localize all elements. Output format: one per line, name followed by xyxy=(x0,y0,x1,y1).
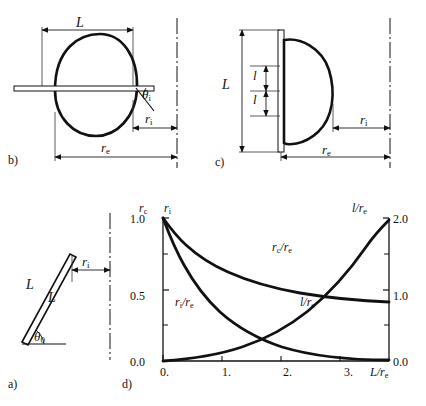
label-l-upper-c: l xyxy=(253,69,257,82)
panel-c-drawing xyxy=(239,18,390,168)
label-L-b: L xyxy=(76,16,84,30)
label-L-c: L xyxy=(222,78,230,92)
label-theta-i-b: θi xyxy=(142,88,151,103)
panel-tag-d: d) xyxy=(122,378,132,390)
panel-tag-b: b) xyxy=(8,154,18,166)
label-l-lower-c: l xyxy=(253,93,257,106)
ytick-label-right-1: 1.0 xyxy=(393,290,408,302)
label-ri-c: ri xyxy=(360,113,368,128)
panel-tag-c: c) xyxy=(215,156,224,168)
label-theta-0-a: θ0 xyxy=(34,330,45,345)
axis-header-ri: ri xyxy=(164,202,171,216)
label-re-c: re xyxy=(322,143,331,158)
label-ri-a: ri xyxy=(82,255,90,270)
xtick-label-0: 0. xyxy=(160,366,169,378)
label-re-b: re xyxy=(101,141,110,156)
curve-label-l-over-re: l/re xyxy=(300,296,315,310)
ytick-label-right-2: 0.0 xyxy=(393,356,408,368)
label-L-upper-a: L xyxy=(26,278,34,292)
leaf-outline-b xyxy=(55,34,137,136)
curve-label-rc-over-re: rc/re xyxy=(272,241,292,255)
panel-a-drawing xyxy=(0,0,110,360)
ytick-label-right-0: 2.0 xyxy=(393,213,408,225)
label-ri-b: ri xyxy=(145,112,153,127)
x-axis-label: L/re xyxy=(370,366,388,380)
xtick-label-2: 2. xyxy=(283,366,292,378)
panel-tag-a: a) xyxy=(8,378,17,390)
xtick-label-3: 3. xyxy=(344,366,353,378)
ytick-label-left-1: 0.5 xyxy=(130,290,145,302)
ytick-label-left-0: 1.0 xyxy=(130,213,145,225)
axis-header-l-over-re: l/re xyxy=(352,202,367,216)
egg-outline-c xyxy=(284,40,333,145)
xtick-label-1: 1. xyxy=(222,366,231,378)
curve-label-ri-over-re: ri/re xyxy=(175,296,194,310)
label-L-lower-a: L xyxy=(48,291,56,305)
panel-b-drawing xyxy=(14,18,177,168)
ytick-label-left-2: 0.0 xyxy=(130,356,145,368)
bar-b xyxy=(14,86,154,91)
